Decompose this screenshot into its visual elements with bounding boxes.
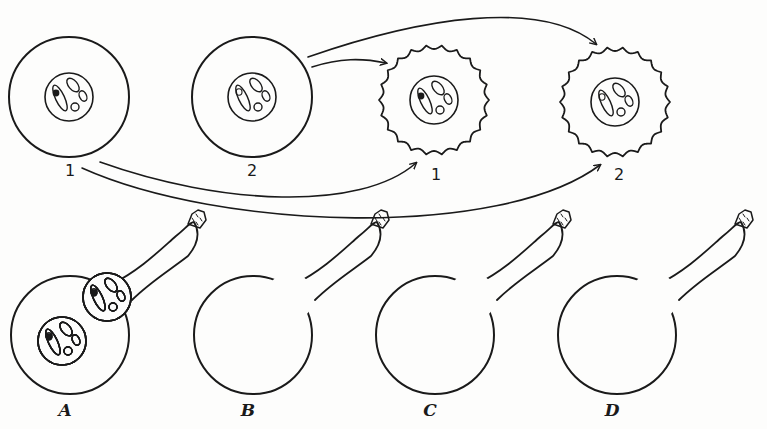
diagram-canvas: 1 2 1 2 A B C D (0, 0, 767, 429)
fertilization-D (558, 210, 753, 394)
diagram-artwork (0, 0, 767, 429)
label-C: C (423, 402, 437, 419)
marked-gene-dot (418, 93, 425, 100)
nucleus-egg-2 (228, 73, 276, 121)
label-D: D (605, 402, 620, 419)
cell-egg-2 (192, 37, 312, 157)
label-result-1: 1 (431, 167, 441, 183)
fertilization-C (376, 210, 571, 394)
cell-result-2 (560, 48, 670, 157)
arrow-egg-2-to-result-1 (312, 60, 386, 67)
marked-gene-dot (53, 90, 60, 97)
arrow-egg-1-to-result-2 (82, 165, 600, 218)
cell-result-1 (379, 46, 489, 155)
arrow-egg-1-to-result-1 (100, 162, 416, 197)
label-egg-1: 1 (65, 163, 75, 179)
fertilization-A (11, 210, 206, 394)
label-B: B (241, 402, 255, 419)
nucleus-result-2 (591, 78, 639, 126)
nucleus-egg-1 (45, 73, 93, 121)
cell-egg-1 (9, 37, 129, 157)
egg-nucleus-D (38, 317, 86, 365)
nucleus-result-1 (410, 76, 458, 124)
label-egg-2: 2 (247, 163, 257, 179)
label-A: A (58, 402, 71, 419)
fertilization-B (194, 210, 389, 394)
label-result-2: 2 (614, 167, 624, 183)
